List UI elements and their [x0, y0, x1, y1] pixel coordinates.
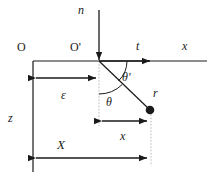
diagram-vector-layer: [0, 0, 211, 178]
label-theta: θ: [106, 96, 112, 108]
label-theta-prime: θ': [122, 71, 130, 83]
label-origin-O-prime: O': [70, 41, 81, 53]
angle-arc-theta: [99, 84, 122, 94]
label-X-distance: X: [57, 138, 65, 151]
label-point-r: r: [153, 87, 158, 99]
label-origin-O: O: [17, 41, 26, 53]
label-normal-n: n: [78, 4, 84, 16]
label-tangent-t: t: [136, 40, 139, 52]
label-epsilon: ε: [61, 89, 66, 101]
label-x-axis: x: [182, 40, 187, 52]
label-x-distance: x: [120, 130, 125, 142]
diagram-canvas: n O O' t x ε θ' θ r z x X: [0, 0, 211, 178]
label-z-axis: z: [8, 112, 13, 124]
point-r-marker: [146, 106, 155, 115]
